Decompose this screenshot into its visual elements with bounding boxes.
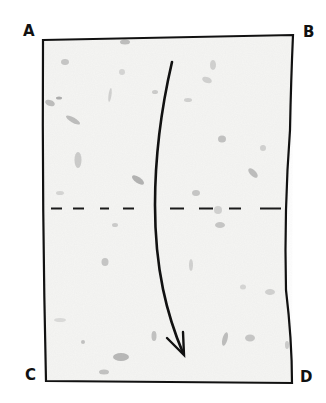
diagram-canvas	[0, 0, 326, 403]
corner-label-c: C	[25, 368, 36, 383]
paper-sheet	[0, 0, 326, 403]
corner-label-d: D	[300, 370, 312, 385]
corner-label-b: B	[303, 25, 314, 40]
folding-diagram: A B C D	[0, 0, 326, 403]
corner-label-a: A	[23, 24, 35, 39]
paper-grain	[0, 0, 326, 403]
